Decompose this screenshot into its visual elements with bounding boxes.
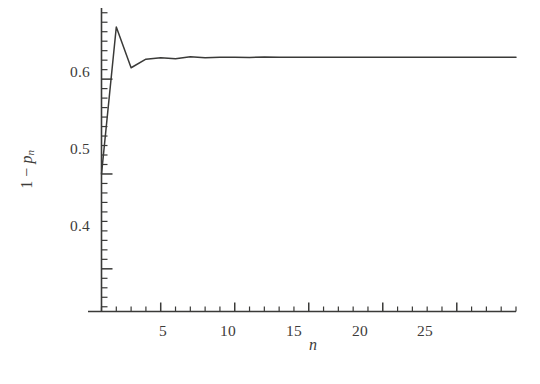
axis-lines — [88, 8, 516, 312]
x-tick-label-4: 25 — [410, 322, 440, 340]
y-axis-title-prefix: 1 − — [18, 164, 35, 189]
x-tick-label-3: 20 — [345, 322, 375, 340]
y-axis-title: 1 − pn — [18, 130, 37, 208]
y-tick-label-1: 0.5 — [50, 140, 90, 158]
y-tick-label-0: 0.6 — [50, 63, 90, 81]
x-tick-label-1: 10 — [213, 322, 243, 340]
x-tick-label-0: 5 — [148, 322, 178, 340]
y-axis-title-variable: p — [18, 156, 35, 164]
data-series-layer — [102, 27, 517, 174]
line-chart-plot — [0, 0, 540, 384]
y-axis-title-subscript: n — [24, 150, 36, 156]
y-tick-label-2: 0.4 — [50, 217, 90, 235]
figure-container: 0.6 0.5 0.4 5 10 15 20 25 1 − pn n — [0, 0, 540, 384]
x-axis-title: n — [309, 336, 317, 354]
x-axis-ticks — [102, 303, 517, 312]
series-line-1-minus-pn — [102, 27, 517, 174]
y-axis-title-wrapper: 1 − pn — [6, 130, 46, 220]
x-tick-label-2: 15 — [279, 322, 309, 340]
